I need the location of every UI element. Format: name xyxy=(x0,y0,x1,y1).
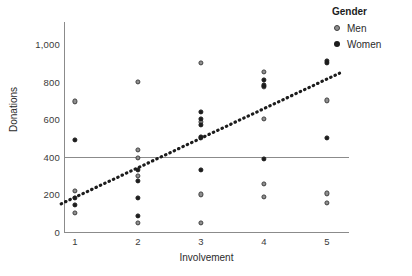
y-axis-tick-labels: 02004006008001,000 xyxy=(0,0,60,276)
data-point-men xyxy=(261,195,266,200)
x-tick-label: 2 xyxy=(135,236,140,247)
legend: Gender MenWomen xyxy=(330,6,412,54)
data-point-men xyxy=(261,117,266,122)
data-point-men xyxy=(135,155,140,160)
data-point-women xyxy=(72,202,77,207)
data-point-men xyxy=(135,148,140,153)
data-point-women xyxy=(324,60,329,65)
data-point-men xyxy=(324,98,329,103)
scatter-plot-figure: Donations 02004006008001,000 12345 Invol… xyxy=(0,0,412,276)
x-axis-title: Involvement xyxy=(64,252,349,263)
legend-title: Gender xyxy=(332,6,412,17)
data-point-men xyxy=(261,181,266,186)
x-tick-label: 5 xyxy=(324,236,329,247)
data-point-men xyxy=(198,220,203,225)
data-point-women xyxy=(135,179,140,184)
legend-entry-women[interactable]: Women xyxy=(330,38,412,50)
data-point-women xyxy=(72,196,77,201)
data-point-women xyxy=(72,137,77,142)
y-tick-label: 600 xyxy=(4,114,60,125)
data-point-women xyxy=(198,109,203,114)
x-tick-label: 3 xyxy=(198,236,203,247)
data-point-women xyxy=(198,122,203,127)
data-point-men xyxy=(324,191,329,196)
data-point-women xyxy=(135,196,140,201)
data-point-women xyxy=(261,156,266,161)
x-axis-line xyxy=(64,232,349,233)
x-tick-label: 4 xyxy=(261,236,266,247)
data-point-men xyxy=(72,211,77,216)
data-point-women xyxy=(198,167,203,172)
data-point-women xyxy=(324,135,329,140)
data-point-women xyxy=(135,213,140,218)
data-point-men xyxy=(72,188,77,193)
data-point-men xyxy=(135,79,140,84)
y-tick-label: 800 xyxy=(4,76,60,87)
y-tick-label: 400 xyxy=(4,151,60,162)
data-point-men xyxy=(261,70,266,75)
y-tick-label: 0 xyxy=(4,227,60,238)
data-point-women xyxy=(261,77,266,82)
y-axis-line xyxy=(64,22,65,232)
data-point-men xyxy=(135,220,140,225)
data-point-men xyxy=(198,60,203,65)
data-point-men xyxy=(72,99,77,104)
y-tick-label: 1,000 xyxy=(4,39,60,50)
legend-label: Women xyxy=(347,39,381,50)
reference-line-400 xyxy=(64,157,349,158)
data-point-women xyxy=(135,167,140,172)
legend-marker-men-icon xyxy=(330,25,343,31)
data-point-men xyxy=(135,173,140,178)
legend-entries: MenWomen xyxy=(330,22,412,50)
legend-label: Men xyxy=(347,23,366,34)
y-tick-label: 200 xyxy=(4,189,60,200)
legend-marker-women-icon xyxy=(330,41,343,47)
data-point-men xyxy=(324,200,329,205)
x-tick-label: 1 xyxy=(72,236,77,247)
data-point-men xyxy=(198,192,203,197)
legend-entry-men[interactable]: Men xyxy=(330,22,412,34)
